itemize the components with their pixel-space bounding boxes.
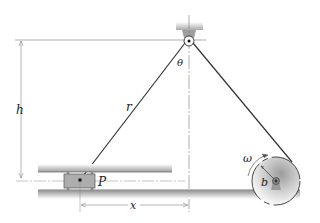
rotating-disk [252,157,300,205]
label-b: b [261,176,268,189]
label-omega: ω [243,152,252,165]
mechanics-diagram: h P x r θ b ω [0,0,320,223]
rope-to-collar [80,43,185,180]
label-theta: θ [177,57,183,68]
upper-rail [38,164,172,172]
collar-P [64,172,95,191]
pulley-icon [184,36,194,46]
label-h: h [16,103,24,117]
label-x: x [130,199,137,212]
label-P: P [97,175,107,189]
rope-to-disk [193,43,292,162]
